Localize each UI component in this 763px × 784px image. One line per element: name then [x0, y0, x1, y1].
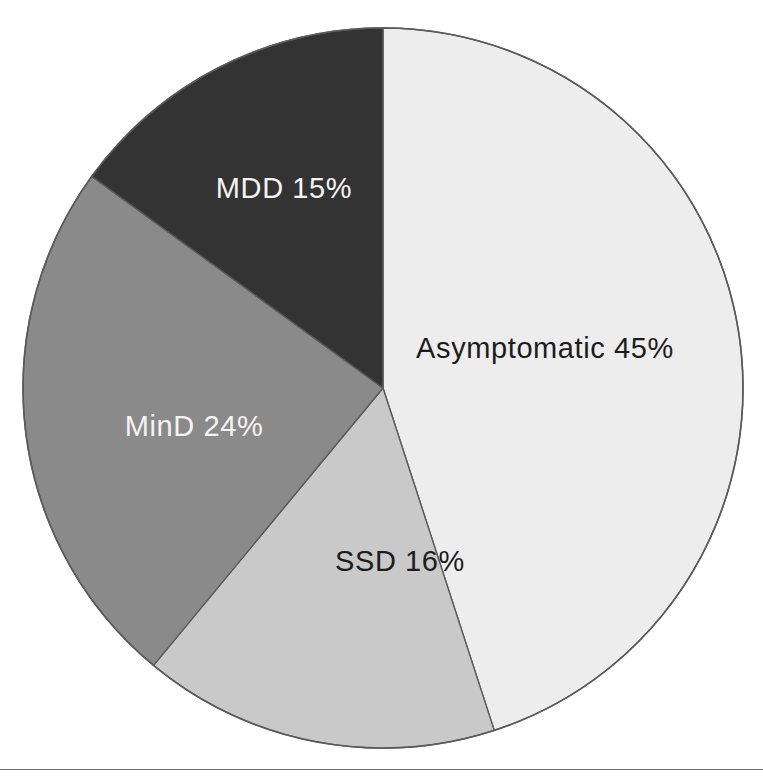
- pie-slice-label-ssd: SSD 16%: [335, 545, 465, 577]
- pie-slices-group: [23, 28, 743, 748]
- pie-chart-svg: Asymptomatic 45%SSD 16%MinD 24%MDD 15%: [0, 0, 763, 784]
- bottom-horizontal-rule: [0, 769, 763, 770]
- pie-slice-label-asymptomatic: Asymptomatic 45%: [416, 332, 674, 364]
- pie-slice-label-mdd: MDD 15%: [216, 172, 352, 204]
- pie-slice-label-mind: MinD 24%: [125, 410, 264, 442]
- pie-chart-figure: Asymptomatic 45%SSD 16%MinD 24%MDD 15%: [0, 0, 763, 784]
